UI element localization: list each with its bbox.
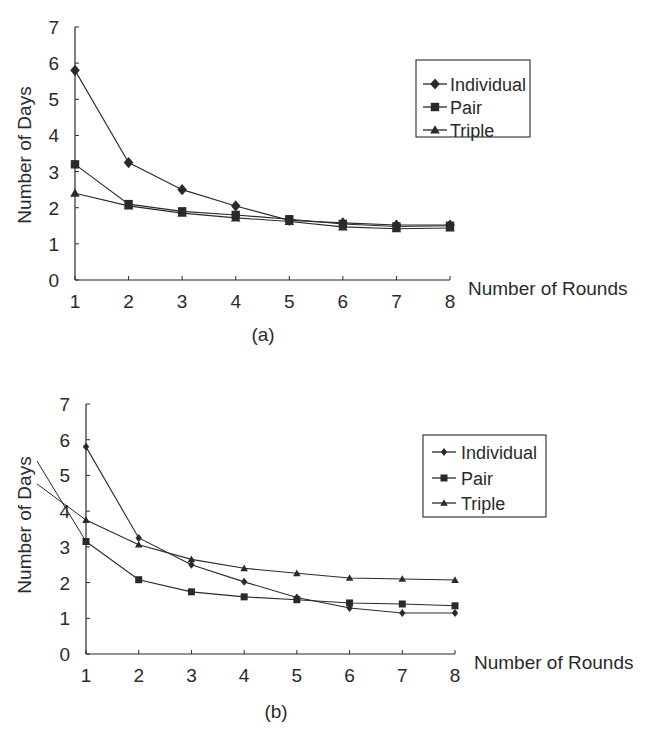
legend-label: Triple: [461, 494, 505, 514]
axes: 0123456712345678: [48, 17, 455, 312]
diamond-marker-icon: [241, 578, 247, 586]
series-pair: [83, 538, 459, 609]
diamond-marker-icon: [452, 609, 458, 617]
square-marker-icon: [452, 602, 459, 609]
x-tick-label: 4: [230, 291, 241, 312]
legend-label: Individual: [461, 443, 537, 463]
x-tick-label: 5: [284, 291, 295, 312]
y-tick-label: 3: [48, 162, 59, 183]
legend-label: Triple: [450, 121, 494, 141]
x-axis-title: Number of Rounds: [474, 652, 633, 673]
x-tick-label: 1: [70, 291, 81, 312]
y-tick-label: 7: [59, 394, 70, 415]
x-tick-label: 4: [239, 665, 250, 686]
square-marker-icon: [441, 475, 448, 482]
diamond-marker-icon: [231, 200, 241, 211]
chart-panel-a: 0123456712345678Number of DaysNumber of …: [14, 17, 627, 345]
x-tick-label: 2: [133, 665, 144, 686]
square-marker-icon: [346, 599, 353, 606]
y-tick-label: 3: [59, 537, 70, 558]
diamond-marker-icon: [399, 609, 405, 617]
x-tick-label: 6: [344, 665, 355, 686]
x-axis-title: Number of Rounds: [468, 278, 627, 299]
diamond-marker-icon: [70, 65, 80, 76]
y-tick-label: 6: [59, 430, 70, 451]
square-marker-icon: [135, 576, 142, 583]
x-tick-label: 6: [338, 291, 349, 312]
square-marker-icon: [399, 601, 406, 608]
y-tick-label: 2: [48, 198, 59, 219]
diamond-marker-icon: [124, 157, 134, 168]
legend: IndividualPairTriple: [416, 60, 530, 141]
square-marker-icon: [241, 593, 248, 600]
figure: 0123456712345678Number of DaysNumber of …: [0, 0, 665, 747]
x-tick-label: 2: [123, 291, 134, 312]
y-tick-label: 1: [48, 234, 59, 255]
series-triple: [82, 516, 459, 583]
x-tick-label: 3: [177, 291, 188, 312]
square-marker-icon: [293, 596, 300, 603]
series-triple: [70, 188, 455, 232]
y-axis-title: Number of Days: [14, 86, 35, 223]
legend: IndividualPairTriple: [423, 435, 546, 517]
square-marker-icon: [431, 103, 439, 111]
panel-label: (a): [251, 324, 274, 345]
diamond-marker-icon: [177, 184, 187, 195]
triangle-marker-icon: [70, 188, 80, 196]
chart-panel-b: 0123456712345678Number of DaysNumber of …: [14, 394, 633, 722]
y-tick-label: 2: [59, 573, 70, 594]
square-marker-icon: [71, 160, 79, 168]
triangle-marker-icon: [135, 541, 143, 548]
x-tick-label: 7: [397, 665, 408, 686]
x-tick-label: 5: [292, 665, 303, 686]
x-tick-label: 8: [450, 665, 461, 686]
x-tick-label: 1: [81, 665, 92, 686]
series-individual: [83, 443, 458, 617]
square-marker-icon: [188, 588, 195, 595]
x-tick-label: 3: [186, 665, 197, 686]
triangle-marker-icon: [82, 516, 90, 523]
legend-label: Individual: [450, 75, 526, 95]
square-marker-icon: [83, 538, 90, 545]
y-tick-label: 0: [48, 270, 59, 291]
panel-label: (b): [264, 701, 287, 722]
y-tick-label: 7: [48, 17, 59, 38]
y-tick-label: 5: [48, 89, 59, 110]
x-tick-label: 8: [445, 291, 456, 312]
x-tick-label: 7: [391, 291, 402, 312]
y-axis-title: Number of Days: [14, 456, 35, 593]
y-tick-label: 5: [59, 465, 70, 486]
axes: 0123456712345678: [59, 394, 460, 686]
y-tick-label: 4: [48, 125, 59, 146]
y-tick-label: 0: [59, 644, 70, 665]
legend-label: Pair: [450, 98, 482, 118]
y-tick-label: 1: [59, 608, 70, 629]
y-tick-label: 6: [48, 53, 59, 74]
legend-label: Pair: [461, 469, 493, 489]
